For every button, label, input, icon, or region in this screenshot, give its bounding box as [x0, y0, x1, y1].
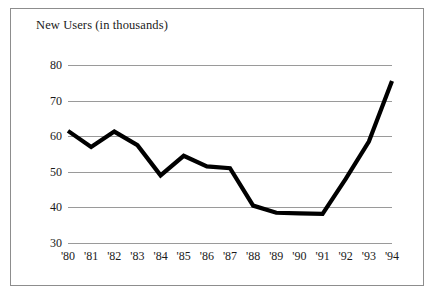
- x-axis-tick-label: '85: [177, 249, 191, 264]
- x-axis-tick-label: '81: [84, 249, 98, 264]
- x-axis-tick-label: '94: [385, 249, 399, 264]
- x-axis-tick-label: '83: [130, 249, 144, 264]
- series-line-new-users: [68, 65, 392, 243]
- x-axis-tick-label: '89: [269, 249, 283, 264]
- y-axis-tick-label: 80: [50, 58, 62, 73]
- y-axis-tick-label: 70: [50, 93, 62, 108]
- x-axis-tick-label: '80: [61, 249, 75, 264]
- x-axis-tick-label: '86: [200, 249, 214, 264]
- x-axis-tick-label: '84: [153, 249, 167, 264]
- chart-figure: New Users (in thousands) 304050607080 '8…: [0, 0, 434, 295]
- y-axis-tick-label: 60: [50, 129, 62, 144]
- chart-title: New Users (in thousands): [36, 18, 168, 33]
- x-axis-tick-label: '82: [107, 249, 121, 264]
- x-axis-tick-label: '90: [292, 249, 306, 264]
- plot-area: [68, 65, 392, 243]
- x-axis-tick-label: '91: [315, 249, 329, 264]
- x-axis-tick-labels: '80'81'82'83'84'85'86'87'88'89'90'91'92'…: [68, 249, 392, 273]
- x-axis-tick-label: '92: [339, 249, 353, 264]
- y-axis-tick-label: 40: [50, 200, 62, 215]
- y-axis-tick-labels: 304050607080: [36, 65, 62, 243]
- x-axis-tick-label: '93: [362, 249, 376, 264]
- gridline: [68, 243, 392, 244]
- x-axis-tick-label: '88: [246, 249, 260, 264]
- y-axis-tick-label: 50: [50, 164, 62, 179]
- x-axis-tick-label: '87: [223, 249, 237, 264]
